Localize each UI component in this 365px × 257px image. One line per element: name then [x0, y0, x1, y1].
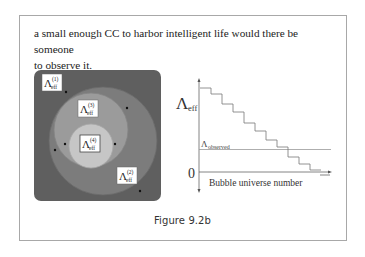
x-axis-label: Bubble universe number — [209, 178, 303, 188]
figure-caption: Figure 9.2b — [0, 215, 365, 226]
label-lambda-eff-1: Λ eff (1) — [42, 74, 62, 91]
zero-label: 0 — [188, 166, 195, 181]
dot-marker — [114, 143, 116, 145]
svg-text:eff: eff — [51, 84, 57, 90]
y-axis-label-sub: eff — [188, 103, 197, 113]
svg-text:eff: eff — [87, 110, 93, 116]
dot-marker — [139, 190, 141, 192]
y-axis-arrow-icon — [198, 189, 201, 193]
dot-marker — [126, 107, 128, 109]
observed-label: Λ — [201, 139, 208, 149]
svg-text:(3): (3) — [88, 102, 95, 109]
observed-label-sub: observed — [208, 144, 230, 150]
svg-text:eff: eff — [126, 177, 132, 183]
y-axis-arrow-icon — [198, 78, 201, 82]
svg-text:eff: eff — [89, 145, 95, 151]
svg-text:(2): (2) — [127, 169, 134, 176]
label-lambda-eff-2: Λ eff (2) — [117, 167, 137, 184]
svg-text:(1): (1) — [52, 76, 59, 83]
dot-marker — [65, 91, 67, 93]
x-axis-arrow-icon — [328, 171, 332, 174]
label-lambda-eff-3: Λ eff (3) — [78, 100, 98, 117]
lambda-eff-staircase — [200, 88, 321, 170]
lambda-staircase-graph: Λ eff Λ observed 0 Bubble universe numbe… — [176, 78, 332, 193]
dot-marker — [54, 149, 56, 151]
bubble-diagram: Λ eff (1) Λ eff (3) Λ eff (4) Λ eff (2) — [34, 70, 161, 201]
svg-text:(4): (4) — [90, 137, 97, 144]
dot-marker — [64, 143, 66, 145]
label-lambda-eff-4: Λ eff (4) — [80, 135, 100, 152]
